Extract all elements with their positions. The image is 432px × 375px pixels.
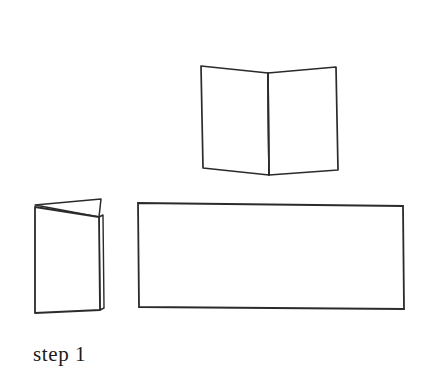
folded-card-figure: [35, 199, 104, 313]
figure-canvas: [0, 0, 432, 375]
open-card-right-panel: [268, 67, 338, 175]
illustration-page: { "page": { "background_color": "#ffffff…: [0, 0, 432, 375]
flat-sheet-outline: [138, 203, 404, 309]
canvas-background: [0, 0, 432, 375]
folded-card-front-panel: [35, 207, 100, 313]
flat-sheet-figure: [138, 203, 404, 309]
step-caption: step 1: [33, 341, 86, 367]
open-card-left-panel: [201, 66, 269, 175]
open-card-figure: [201, 66, 338, 175]
open-card-fold-line: [268, 73, 269, 175]
